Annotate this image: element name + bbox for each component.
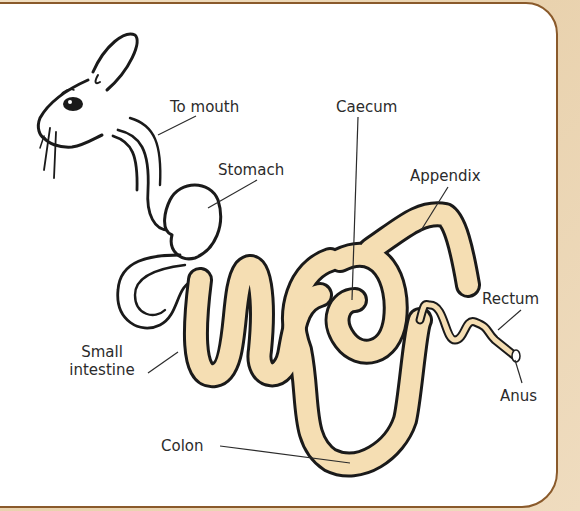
label-stomach: Stomach (218, 161, 284, 179)
label-to-mouth: To mouth (170, 98, 239, 116)
label-anus: Anus (500, 387, 537, 405)
label-colon: Colon (161, 437, 204, 455)
label-small-intestine-line1: Small (64, 343, 140, 361)
label-small-intestine-line2: intestine (64, 361, 140, 379)
label-rectum: Rectum (482, 290, 539, 308)
rabbit-head-icon (38, 34, 137, 178)
label-small-intestine: Small intestine (64, 343, 140, 379)
label-caecum: Caecum (336, 98, 397, 116)
label-appendix: Appendix (410, 167, 481, 185)
rabbit-digestive-illustration (0, 0, 580, 511)
